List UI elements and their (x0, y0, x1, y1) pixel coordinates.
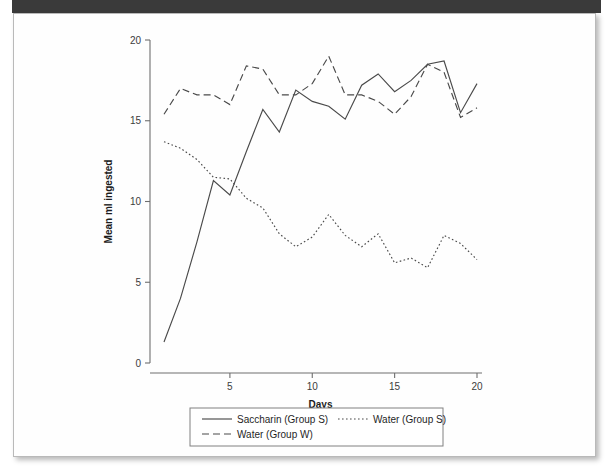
series-line-2 (164, 56, 477, 117)
chart-figure: 05101520Mean ml ingested5101520DaysSacch… (0, 0, 609, 476)
x-axis-tick-label: 10 (307, 381, 319, 392)
y-axis-tick-label: 20 (130, 35, 142, 46)
legend-label-2: Water (Group W) (237, 429, 313, 440)
y-axis-tick-label: 15 (130, 115, 142, 126)
series-line-0 (164, 61, 477, 342)
legend-label-0: Saccharin (Group S) (237, 414, 328, 425)
legend-label-1: Water (Group S) (373, 414, 446, 425)
y-axis-tick-label: 10 (130, 196, 142, 207)
chart-svg-root: 05101520Mean ml ingested5101520DaysSacch… (103, 35, 483, 447)
x-axis-tick-label: 15 (389, 381, 401, 392)
x-axis-tick-label: 5 (227, 381, 233, 392)
y-axis-tick-label: 0 (135, 358, 141, 369)
y-axis-tick-label: 5 (135, 277, 141, 288)
y-axis-title: Mean ml ingested (103, 160, 114, 244)
page-root: 05101520Mean ml ingested5101520DaysSacch… (0, 0, 609, 476)
series-line-1 (164, 142, 477, 268)
x-axis-tick-label: 20 (471, 381, 483, 392)
